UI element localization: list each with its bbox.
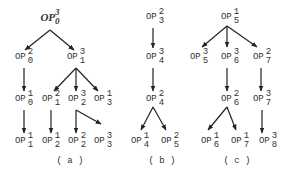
node-subscript: 0 [28, 57, 33, 66]
node-index-stack: 25 [174, 132, 179, 150]
node-base-label: OP [146, 13, 157, 22]
node-subscript: 1 [28, 141, 33, 150]
node-subscript: 3 [107, 141, 112, 150]
node-base-label: OP [146, 53, 157, 62]
arrow-edge-c-6 [227, 107, 236, 130]
node-index-stack: 23 [159, 8, 164, 26]
node-base-label: OP [259, 137, 270, 146]
node-base-label: OP [146, 95, 157, 104]
arrow-edge-a-1 [50, 30, 74, 50]
node-base-label: OP [15, 95, 26, 104]
tree-node-a_11: OP11 [15, 132, 33, 150]
arrow-edge-a-9 [76, 110, 101, 124]
tree-node-c_27: OP27 [253, 48, 271, 66]
node-index-stack: 27 [266, 48, 271, 66]
node-subscript: 2 [81, 141, 86, 150]
node-base-label: OP [253, 95, 264, 104]
node-index-stack: 33 [107, 132, 112, 150]
node-subscript: 0 [28, 99, 33, 108]
node-index-stack: 37 [266, 90, 271, 108]
node-index-stack: 38 [272, 132, 277, 150]
node-base-label: OP [42, 95, 53, 104]
node-subscript: 0 [55, 17, 60, 26]
node-index-stack: 10 [28, 90, 33, 108]
arrow-edge-c-5 [208, 107, 227, 130]
tree-node-b_14: OP14 [131, 132, 149, 150]
tree-node-a_20: OP20 [15, 48, 33, 66]
node-subscript: 6 [234, 99, 239, 108]
node-subscript: 1 [55, 99, 60, 108]
node-subscript: 4 [159, 99, 164, 108]
node-base-label: OP [161, 137, 172, 146]
arrow-edge-a-3 [54, 68, 76, 91]
tree-node-c_38: OP38 [259, 132, 277, 150]
node-index-stack: 20 [28, 48, 33, 66]
tree-node-c_35: OP35 [190, 48, 208, 66]
node-base-label: OP [253, 53, 264, 62]
arrow-edge-c-2 [227, 26, 257, 47]
tree-node-c_15: OP15 [221, 8, 239, 26]
node-base-label: OP [190, 53, 201, 62]
node-base-label: OP [131, 137, 142, 146]
node-index-stack: 21 [55, 90, 60, 108]
tree-caption-c: ( c ) [223, 156, 250, 166]
node-subscript: 7 [266, 99, 271, 108]
node-index-stack: 32 [81, 90, 86, 108]
node-base-label: OP [94, 95, 105, 104]
tree-node-b_25: OP25 [161, 132, 179, 150]
node-subscript: 1 [80, 57, 85, 66]
node-base-label: OP [94, 137, 105, 146]
node-subscript: 5 [203, 57, 208, 66]
tree-node-b_23: OP23 [146, 8, 164, 26]
node-subscript: 7 [266, 57, 271, 66]
tree-node-a_31: OP31 [67, 48, 85, 66]
arrow-edge-b-3 [153, 107, 166, 130]
node-subscript: 3 [107, 99, 112, 108]
tree-node-a_33: OP33 [94, 132, 112, 150]
node-base-label: OP [221, 13, 232, 22]
tree-node-a_32: OP32 [68, 90, 86, 108]
arrow-edge-b-2 [141, 107, 153, 130]
node-index-stack: 35 [203, 48, 208, 66]
node-index-stack: 13 [107, 90, 112, 108]
node-subscript: 4 [159, 57, 164, 66]
node-base-label: OP [201, 137, 212, 146]
node-base-label: OP [68, 95, 79, 104]
arrow-edge-c-0 [202, 26, 227, 47]
tree-caption-a: ( a ) [56, 156, 83, 166]
node-index-stack: 22 [81, 132, 86, 150]
node-subscript: 6 [234, 57, 239, 66]
node-base-label: OP [221, 95, 232, 104]
node-subscript: 4 [144, 141, 149, 150]
tree-node-c_36: OP36 [221, 48, 239, 66]
node-base-label: OP [42, 137, 53, 146]
tree-node-a_10: OP10 [15, 90, 33, 108]
node-base-label: OP [67, 53, 78, 62]
node-base-label: OP [231, 137, 242, 146]
tree-node-b_24: OP24 [146, 90, 164, 108]
node-subscript: 2 [81, 99, 86, 108]
tree-node-a_13: OP13 [94, 90, 112, 108]
tree-node-a_22: OP22 [68, 132, 86, 150]
tree-node-c_37: OP37 [253, 90, 271, 108]
node-base-label: OP [15, 53, 26, 62]
node-index-stack: 14 [144, 132, 149, 150]
node-subscript: 7 [244, 141, 249, 150]
tree-node-b_34: OP34 [146, 48, 164, 66]
node-index-stack: 30 [55, 8, 60, 26]
arrow-edge-a-5 [76, 68, 98, 91]
tree-node-a_21: OP21 [42, 90, 60, 108]
node-index-stack: 12 [55, 132, 60, 150]
node-subscript: 5 [174, 141, 179, 150]
node-index-stack: 31 [80, 48, 85, 66]
tree-caption-b: ( b ) [148, 156, 175, 166]
node-subscript: 3 [159, 17, 164, 26]
node-base-label: OP [68, 137, 79, 146]
node-base-label: OP [15, 137, 26, 146]
node-index-stack: 16 [214, 132, 219, 150]
tree-node-a_12: OP12 [42, 132, 60, 150]
node-index-stack: 17 [244, 132, 249, 150]
tree-node-c_17: OP17 [231, 132, 249, 150]
node-subscript: 2 [55, 141, 60, 150]
tree-node-c_16: OP16 [201, 132, 219, 150]
